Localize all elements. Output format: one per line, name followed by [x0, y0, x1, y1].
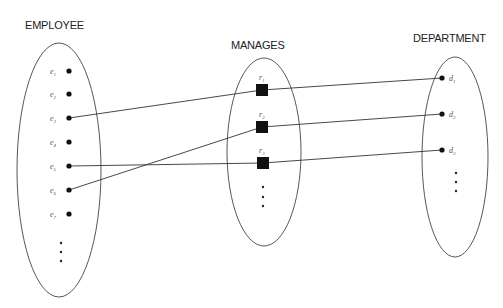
- employee-e1: e1: [50, 67, 72, 77]
- manages-elements: r1 r2 r3: [256, 73, 269, 207]
- employee-set-title: EMPLOYEE: [25, 19, 84, 31]
- department-d2: d2: [439, 110, 456, 120]
- manages-r1: r1: [256, 73, 268, 96]
- link-e6-r2: [69, 127, 262, 190]
- relationship-box: [256, 121, 268, 133]
- entity-dot: [66, 163, 71, 168]
- department-continuation-dots: [455, 172, 457, 192]
- element-label: r3: [259, 146, 265, 156]
- link-r3-d3: [263, 150, 442, 163]
- employee-set: [17, 43, 101, 297]
- department-elements: d1 d2 d3: [439, 74, 457, 192]
- employee-ellipse: [17, 43, 101, 297]
- department-d1: d1: [439, 74, 455, 84]
- department-d3: d3: [439, 146, 456, 156]
- relationship-box: [257, 157, 269, 169]
- manages-r3: r3: [257, 146, 269, 169]
- element-label: e6: [50, 186, 57, 196]
- relationship-links: [69, 78, 442, 190]
- entity-dot: [439, 75, 444, 80]
- entity-dot: [66, 187, 71, 192]
- employee-e5: e5: [50, 162, 72, 172]
- link-r2-d2: [262, 114, 442, 127]
- element-label: d1: [449, 74, 456, 84]
- entity-dot: [66, 91, 71, 96]
- element-label: e5: [50, 162, 57, 172]
- entity-dot: [439, 111, 444, 116]
- link-e3-r1: [69, 90, 262, 118]
- element-label: e3: [50, 114, 57, 124]
- employee-elements: e1 e2 e3 e4 e5 e6 e7: [50, 67, 72, 262]
- entity-dot: [66, 68, 71, 73]
- employee-e6: e6: [50, 186, 72, 196]
- link-r1-d1: [262, 78, 442, 90]
- element-label: e1: [50, 67, 56, 77]
- element-label: d3: [449, 146, 456, 156]
- entity-dot: [66, 211, 71, 216]
- element-label: e2: [50, 90, 57, 100]
- entity-dot: [66, 139, 71, 144]
- entity-dot: [439, 147, 444, 152]
- manages-r2: r2: [256, 110, 268, 133]
- relationship-box: [256, 84, 268, 96]
- element-label: d2: [449, 110, 456, 120]
- department-set-title: DEPARTMENT: [413, 32, 486, 44]
- employee-e2: e2: [50, 90, 72, 100]
- entity-dot: [66, 115, 71, 120]
- employee-e7: e7: [50, 210, 72, 220]
- er-instance-diagram: EMPLOYEE MANAGES DEPARTMENT e1 e2 e3: [0, 0, 503, 308]
- employee-continuation-dots: [60, 242, 62, 262]
- employee-e3: e3: [50, 114, 72, 124]
- element-label: r1: [259, 73, 265, 83]
- manages-continuation-dots: [262, 186, 264, 207]
- department-set: [422, 57, 488, 257]
- manages-set-title: MANAGES: [231, 39, 285, 51]
- link-e5-r3: [69, 163, 263, 166]
- employee-e4: e4: [50, 138, 72, 148]
- element-label: r2: [259, 110, 265, 120]
- element-label: e4: [50, 138, 57, 148]
- department-ellipse: [422, 57, 488, 257]
- element-label: e7: [50, 210, 57, 220]
